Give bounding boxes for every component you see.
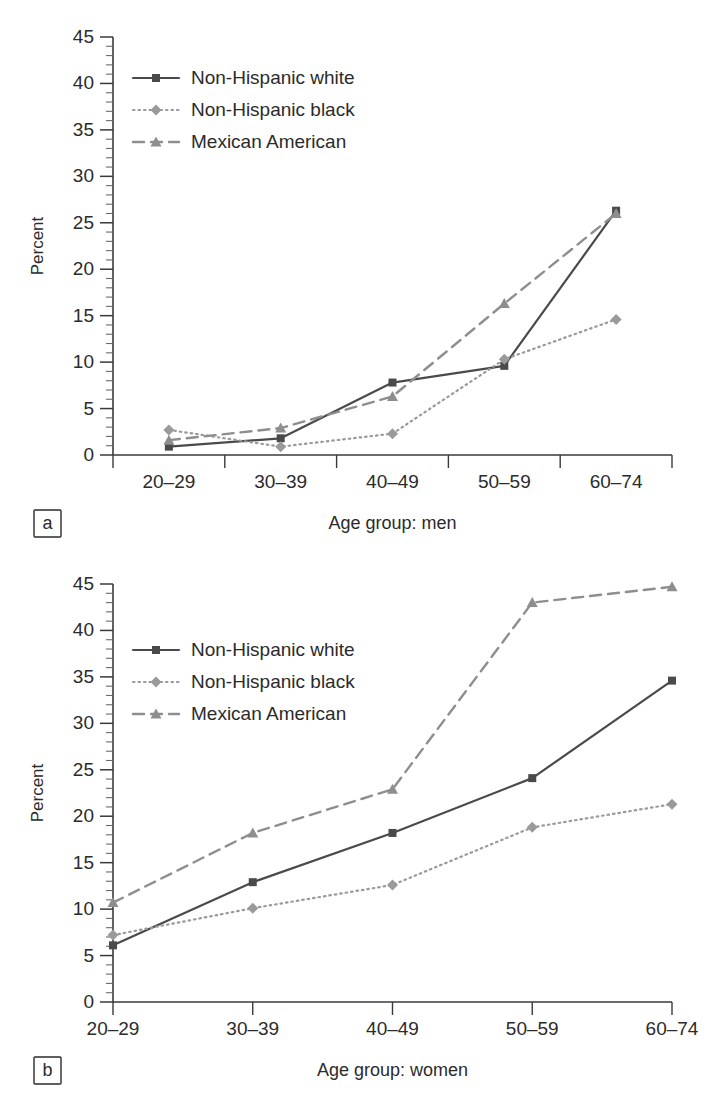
data-point-marker — [667, 799, 678, 810]
data-point-marker — [247, 903, 258, 914]
data-point-marker — [528, 774, 536, 782]
legend-swatch-marker — [152, 74, 160, 82]
series-line-1 — [169, 211, 616, 447]
x-axis-title: Age group: men — [328, 513, 456, 533]
chart-panel-a: 051015202530354045Percent20–2930–3940–49… — [0, 0, 721, 547]
legend-label: Mexican American — [191, 131, 346, 152]
y-tick-label: 25 — [73, 759, 94, 780]
line-chart-men: 051015202530354045Percent20–2930–3940–49… — [0, 0, 721, 547]
legend-swatch-marker — [151, 677, 162, 688]
data-point-marker — [389, 829, 397, 837]
legend-label: Mexican American — [191, 703, 346, 724]
y-tick-label: 30 — [73, 712, 94, 733]
legend-swatch-marker — [152, 646, 160, 654]
x-tick-label: 30–39 — [254, 471, 307, 492]
y-axis-title: Percent — [28, 216, 47, 275]
x-tick-label: 20–29 — [87, 1018, 140, 1039]
legend-label: Non-Hispanic white — [191, 67, 355, 88]
panel-tag-label: a — [42, 513, 53, 533]
y-tick-label: 0 — [83, 991, 94, 1012]
data-point-marker — [527, 822, 538, 833]
y-tick-label: 35 — [73, 666, 94, 687]
y-tick-label: 20 — [73, 258, 94, 279]
y-tick-label: 45 — [73, 573, 94, 594]
x-tick-label: 40–49 — [366, 471, 419, 492]
series-line-3 — [169, 213, 616, 440]
data-point-marker — [611, 314, 622, 325]
series-line-3 — [113, 587, 672, 903]
data-point-marker — [109, 941, 117, 949]
x-tick-label: 40–49 — [366, 1018, 419, 1039]
y-axis-title: Percent — [28, 763, 47, 822]
x-tick-label: 60–74 — [646, 1018, 699, 1039]
y-tick-label: 15 — [73, 852, 94, 873]
x-tick-label: 60–74 — [590, 471, 643, 492]
y-tick-label: 20 — [73, 805, 94, 826]
data-point-marker — [163, 424, 174, 435]
y-tick-label: 35 — [73, 119, 94, 140]
y-tick-label: 5 — [83, 945, 94, 966]
y-tick-label: 40 — [73, 72, 94, 93]
data-point-marker — [275, 441, 286, 452]
data-point-marker — [668, 677, 676, 685]
x-tick-label: 30–39 — [226, 1018, 279, 1039]
y-tick-label: 40 — [73, 619, 94, 640]
legend-label: Non-Hispanic black — [191, 99, 355, 120]
data-point-marker — [108, 930, 119, 941]
data-point-marker — [249, 878, 257, 886]
legend-label: Non-Hispanic white — [191, 639, 355, 660]
data-point-marker — [277, 434, 285, 442]
y-tick-label: 5 — [83, 398, 94, 419]
x-axis-title: Age group: women — [317, 1060, 468, 1080]
legend-label: Non-Hispanic black — [191, 671, 355, 692]
line-chart-women: 051015202530354045Percent20–2930–3940–49… — [0, 547, 721, 1094]
x-tick-label: 50–59 — [506, 1018, 559, 1039]
chart-panel-b: 051015202530354045Percent20–2930–3940–49… — [0, 547, 721, 1094]
x-tick-label: 20–29 — [142, 471, 195, 492]
y-tick-label: 30 — [73, 165, 94, 186]
x-tick-label: 50–59 — [478, 471, 531, 492]
series-line-2 — [113, 804, 672, 935]
y-tick-label: 25 — [73, 212, 94, 233]
panel-tag-label: b — [42, 1060, 52, 1080]
y-tick-label: 15 — [73, 305, 94, 326]
data-point-marker — [247, 827, 258, 837]
legend-swatch-marker — [151, 105, 162, 116]
y-tick-label: 45 — [73, 26, 94, 47]
data-point-marker — [108, 897, 119, 907]
data-point-marker — [387, 879, 398, 890]
y-tick-label: 10 — [73, 351, 94, 372]
data-point-marker — [389, 379, 397, 387]
y-tick-label: 0 — [83, 444, 94, 465]
y-tick-label: 10 — [73, 898, 94, 919]
